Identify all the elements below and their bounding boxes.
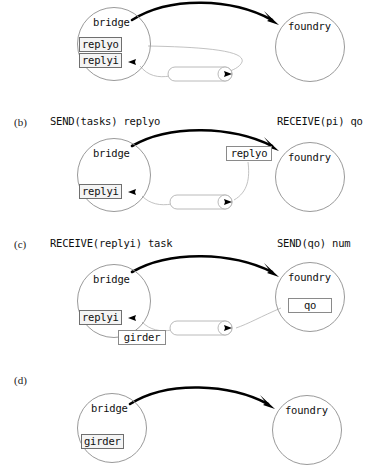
node-bridge-label: bridge (93, 147, 130, 159)
panel-b: (b) SEND(tasks) replyo RECEIVE(pi) qo br… (0, 104, 378, 226)
panel-d: (d) bridge girder foundry (0, 360, 378, 464)
port-qo[interactable]: qo (288, 298, 332, 313)
reference-curve-replyo (234, 162, 249, 200)
node-bridge-label: bridge (91, 402, 128, 414)
port-replyi[interactable]: replyi (79, 310, 122, 325)
message-arrow (132, 130, 272, 146)
node-bridge-label: bridge (93, 273, 130, 285)
node-foundry-label: foundry (288, 271, 331, 283)
port-replyi[interactable]: replyi (79, 184, 122, 199)
panel-a: bridge replyo replyi foundry (0, 0, 378, 104)
reference-curve-channel (142, 196, 172, 205)
message-arrow (132, 3, 272, 20)
panel-c: (c) RECEIVE(replyi) task SEND(qo) num br… (0, 226, 378, 360)
port-replyi[interactable]: replyi (79, 53, 122, 68)
message-arrow (132, 256, 272, 272)
channel-label-girder[interactable]: girder (118, 330, 166, 345)
message-arrow (130, 387, 268, 404)
node-foundry-label: foundry (288, 20, 331, 32)
node-bridge-label: bridge (93, 16, 130, 28)
port-replyo[interactable]: replyo (79, 37, 122, 52)
reference-curve-channel (140, 66, 170, 77)
node-foundry-label: foundry (288, 151, 331, 163)
reference-curve-qo (236, 308, 281, 328)
floating-label-replyo[interactable]: replyo (226, 146, 272, 161)
node-foundry-label: foundry (285, 404, 328, 416)
port-girder[interactable]: girder (81, 434, 124, 449)
